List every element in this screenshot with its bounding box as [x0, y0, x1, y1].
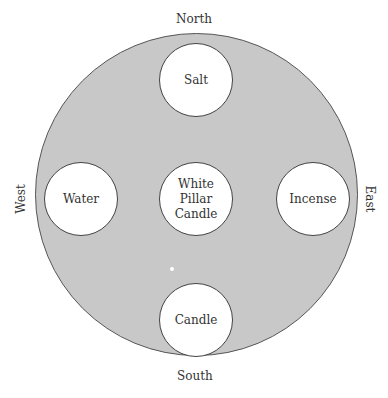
direction-south: South — [177, 369, 213, 383]
direction-east: East — [363, 186, 377, 213]
direction-north: North — [176, 12, 212, 26]
candle-circle: Candle — [159, 283, 233, 357]
artifact-dot — [170, 267, 174, 271]
salt-circle: Salt — [159, 43, 233, 117]
water-label: Water — [63, 192, 99, 207]
incense-circle: Incense — [276, 162, 350, 236]
direction-west: West — [14, 184, 28, 213]
candle-label: Candle — [175, 313, 218, 328]
white-pillar-candle-circle: White Pillar Candle — [159, 162, 233, 236]
white-pillar-candle-label: White Pillar Candle — [164, 177, 228, 222]
salt-label: Salt — [184, 73, 208, 88]
incense-label: Incense — [289, 192, 336, 207]
water-circle: Water — [44, 162, 118, 236]
